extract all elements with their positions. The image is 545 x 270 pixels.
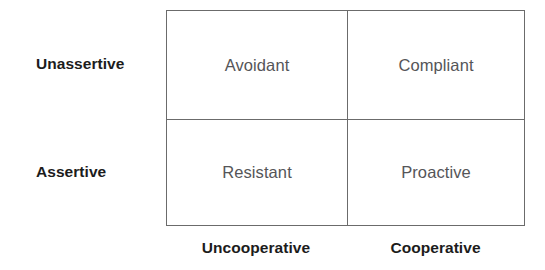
column-axis-label-uncooperative: Uncooperative [166, 236, 346, 260]
diagram-canvas: Unassertive Assertive Avoidant Compliant… [0, 0, 545, 270]
row-axis-label-unassertive: Unassertive [36, 52, 160, 76]
column-axis-label-cooperative: Cooperative [346, 236, 525, 260]
matrix-grid: Avoidant Compliant Resistant Proactive [166, 10, 525, 226]
matrix-cell-resistant: Resistant [167, 119, 347, 225]
matrix-cell-avoidant: Avoidant [167, 11, 347, 119]
matrix-cell-proactive: Proactive [347, 119, 524, 225]
row-axis-label-assertive: Assertive [36, 160, 160, 184]
matrix-cell-compliant: Compliant [347, 11, 524, 119]
